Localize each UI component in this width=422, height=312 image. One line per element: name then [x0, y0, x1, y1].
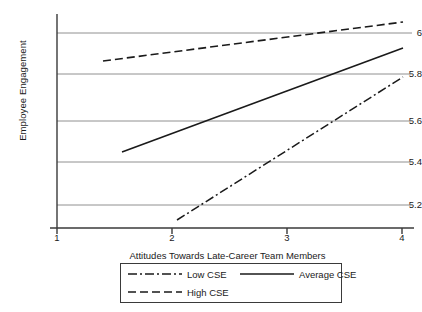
chart-figure: Employee Engagement Attitudes Towards La…	[0, 0, 422, 312]
legend-label-average-cse: Average CSE	[299, 268, 356, 281]
series-line-low-cse	[177, 77, 403, 220]
chart-legend: Low CSE Average CSE High CSE	[120, 263, 342, 303]
axes	[50, 14, 414, 234]
legend-swatch-dashed-icon	[127, 285, 183, 299]
legend-label-high-cse: High CSE	[187, 286, 229, 299]
legend-label-low-cse: Low CSE	[187, 268, 227, 281]
gridlines	[57, 33, 412, 205]
series-line-average-cse	[122, 48, 403, 152]
legend-swatch-solid-icon	[239, 267, 295, 281]
series-line-high-cse	[103, 22, 403, 61]
legend-swatch-dash-dot-icon	[127, 267, 183, 281]
